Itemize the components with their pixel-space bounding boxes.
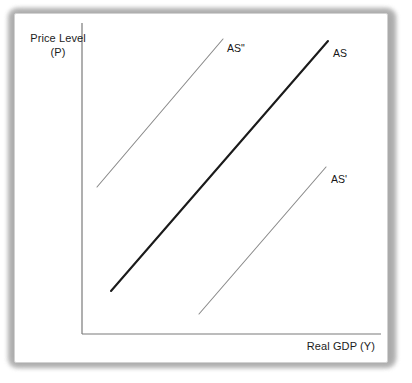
curve-label-as-double-prime: AS" xyxy=(227,43,245,54)
curve-as-double-prime xyxy=(97,39,223,187)
curve-label-as-prime: AS' xyxy=(331,174,347,185)
curve-as xyxy=(111,41,328,291)
curve-as-prime xyxy=(199,167,326,314)
y-axis-label-line1: Price Level xyxy=(30,32,86,44)
x-axis-label: Real GDP (Y) xyxy=(307,339,375,353)
figure-card: Price Level (P) Real GDP (Y) AS" AS AS' xyxy=(14,13,388,363)
y-axis-label-line2: (P) xyxy=(21,45,95,59)
aggregate-supply-chart xyxy=(15,14,387,362)
curve-label-as: AS xyxy=(333,48,347,59)
figure-root: Price Level (P) Real GDP (Y) AS" AS AS' xyxy=(0,0,412,383)
y-axis-label: Price Level (P) xyxy=(21,31,95,59)
